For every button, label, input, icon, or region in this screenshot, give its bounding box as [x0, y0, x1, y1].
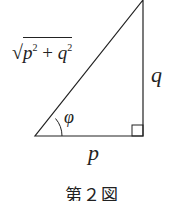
right-angle-marker	[132, 125, 143, 136]
angle-label: φ	[64, 107, 74, 128]
angle-arc	[56, 119, 63, 137]
horizontal-side-label: p	[88, 140, 99, 166]
figure-caption: 第２図	[65, 181, 119, 201]
vertical-side-label: q	[151, 62, 162, 88]
plus-operator: +	[37, 42, 57, 63]
hypotenuse-label: √p2 + q2	[12, 37, 72, 64]
triangle	[35, 0, 143, 136]
radical-sign: √	[12, 41, 23, 63]
radicand: p2 + q2	[23, 37, 72, 63]
q-symbol: q	[58, 42, 68, 63]
exponent: 2	[67, 42, 72, 53]
right-triangle-diagram	[0, 0, 173, 201]
